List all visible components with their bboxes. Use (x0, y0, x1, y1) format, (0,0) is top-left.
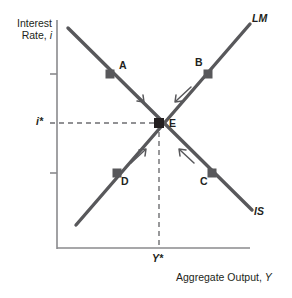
is-curve-label: IS (254, 205, 264, 217)
point-b-marker (204, 70, 213, 79)
point-c-marker (208, 169, 217, 178)
is-lm-diagram: Interest Rate, i Aggregate Output, Y LM … (0, 0, 292, 298)
point-c-label: C (200, 175, 208, 187)
y-axis-title-text: Interest Rate, (17, 17, 52, 41)
guide-lines (50, 123, 159, 248)
point-e-label: E (169, 117, 176, 129)
i-star-label: i* (36, 115, 43, 127)
y-axis-title: Interest Rate, i (2, 17, 52, 41)
y-star-label: Y* (152, 252, 163, 264)
point-a-marker (106, 70, 115, 79)
x-axis-title-text: Aggregate Output, (176, 271, 265, 283)
y-axis-title-variable: i (50, 29, 52, 41)
point-a-label: A (119, 59, 127, 71)
point-b-label: B (195, 56, 203, 68)
x-axis-title-variable: Y (265, 271, 272, 283)
lm-curve-label: LM (252, 12, 267, 24)
x-axis-title: Aggregate Output, Y (176, 271, 272, 283)
point-d-label: D (121, 175, 129, 187)
arrow-from-a-icon (128, 87, 144, 102)
point-e-marker (154, 118, 164, 128)
diagram-canvas (0, 0, 292, 298)
